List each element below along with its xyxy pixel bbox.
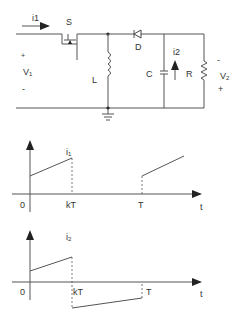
ground-icon: [102, 108, 114, 120]
diode-d: [134, 30, 141, 38]
tick-T: T: [146, 287, 152, 297]
x-axis-arrow-icon: [192, 278, 202, 286]
i1-label: i1: [32, 13, 39, 23]
tick-kT: kT: [73, 287, 84, 297]
v1-minus: -: [22, 84, 25, 94]
t-axis-label: t: [200, 289, 203, 299]
tick-0: 0: [20, 200, 25, 210]
capacitor-label: C: [146, 69, 153, 79]
v2-label: V2: [220, 71, 230, 81]
v1-label: V1: [23, 67, 33, 77]
resistor-label: R: [186, 69, 193, 79]
i1-ramp-1: [30, 158, 72, 176]
plot1-title: i1: [66, 147, 72, 157]
switch-label: S: [66, 17, 72, 27]
x-axis-arrow-icon: [192, 190, 202, 198]
diode-label: D: [135, 42, 142, 52]
plot2-title: i2: [66, 232, 72, 242]
tick-kT: kT: [66, 200, 77, 210]
i2-ramp-up: [30, 257, 72, 271]
v2-minus: -: [217, 55, 220, 65]
i1-ramp-2: [142, 156, 184, 176]
resistor-r: [201, 61, 207, 80]
t-axis-label: t: [200, 202, 203, 212]
switch-s: [62, 34, 108, 60]
plot-i2: i2 0 kT T t: [12, 230, 203, 308]
buck-boost-diagram: i1 S L D C: [0, 0, 240, 322]
tick-0: 0: [20, 287, 25, 297]
tick-T: T: [138, 200, 144, 210]
i1-arrow-icon: [40, 22, 50, 30]
plot-i1: i1 0 kT T t: [12, 140, 203, 212]
i2-arrow-icon: [171, 60, 179, 70]
v2-plus: +: [218, 84, 223, 94]
circuit-schematic: i1 S L D C: [16, 13, 230, 120]
v1-plus: +: [21, 52, 25, 59]
inductor-l: [108, 52, 111, 76]
i2-ramp-down: [72, 298, 142, 308]
i2-circuit-label: i2: [173, 47, 180, 57]
y-axis-arrow-icon: [26, 140, 34, 150]
inductor-label: L: [92, 75, 97, 85]
y-axis-arrow-icon: [26, 230, 34, 240]
